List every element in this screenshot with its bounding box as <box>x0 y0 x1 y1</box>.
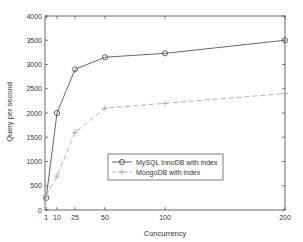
data-point-plus <box>282 91 288 97</box>
y-tick-label: 0 <box>38 207 42 214</box>
data-point-plus <box>43 192 49 198</box>
data-point-plus <box>54 173 60 179</box>
y-axis-label: Query per second <box>5 82 14 142</box>
y-tick-label: 4000 <box>26 13 42 20</box>
x-tick-label: 1 <box>44 214 48 221</box>
y-tick-label: 2500 <box>26 85 42 92</box>
line-chart: 0500100015002000250030003500400011025501… <box>0 0 303 242</box>
x-axis-label: Concurrency <box>144 229 187 238</box>
y-tick-label: 3000 <box>26 61 42 68</box>
plot-frame <box>45 16 285 210</box>
x-tick-label: 50 <box>101 214 109 221</box>
y-tick-label: 1500 <box>26 134 42 141</box>
x-tick-label: 200 <box>279 214 291 221</box>
x-tick-label: 100 <box>159 214 171 221</box>
x-tick-label: 10 <box>53 214 61 221</box>
series-mongodb <box>43 91 288 199</box>
legend-label: MongoDB with index <box>136 169 201 177</box>
y-tick-label: 1000 <box>26 158 42 165</box>
data-point-plus <box>162 100 168 106</box>
legend: MySQL InnoDB with indexMongoDB with inde… <box>108 154 223 180</box>
y-tick-label: 2000 <box>26 110 42 117</box>
y-tick-label: 500 <box>30 182 42 189</box>
x-tick-label: 25 <box>71 214 79 221</box>
legend-label: MySQL InnoDB with index <box>136 159 218 167</box>
y-tick-label: 3500 <box>26 37 42 44</box>
